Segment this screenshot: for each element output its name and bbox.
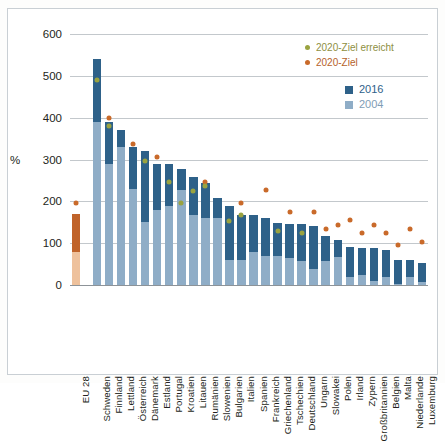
bar-niederlande xyxy=(406,260,414,285)
marker-ziel-erreicht-dot-icon xyxy=(299,231,304,236)
y-tick-label-100: 100 xyxy=(43,237,62,249)
marker-ziel-erreicht-dot-icon xyxy=(107,124,112,129)
bar-segment-2004 xyxy=(93,122,101,285)
bar-segment-2004 xyxy=(213,218,221,285)
marker-ziel-dot-icon xyxy=(263,188,268,193)
bar-segment-2004 xyxy=(201,218,209,285)
bar-tschechien xyxy=(285,224,293,285)
x-tick-label-eu-28: EU 28 xyxy=(80,376,91,403)
x-tick-label-griechenland: Griechenland xyxy=(282,376,293,434)
bar-großbritannien xyxy=(370,248,378,285)
x-tick-label-litauen: Litauen xyxy=(197,376,208,408)
marker-ziel-erreicht-dot-icon xyxy=(179,200,184,205)
bar-segment-2004 xyxy=(297,261,305,285)
x-tick-label-ungarn: Ungarn xyxy=(318,376,329,408)
bar-finnland xyxy=(105,122,113,285)
bar-österreich xyxy=(129,147,137,285)
marker-ziel-dot-icon xyxy=(107,115,112,120)
bar-polen xyxy=(334,240,342,285)
marker-ziel-erreicht-dot-icon xyxy=(275,229,280,234)
y-axis-unit-label: % xyxy=(10,154,20,166)
legend-label-ziel-erreicht: 2020-Ziel erreicht xyxy=(316,40,394,55)
marker-ziel-dot-icon xyxy=(323,227,328,232)
marker-ziel-dot-icon xyxy=(371,222,376,227)
bar-segment-2004 xyxy=(382,277,390,285)
bar-schweden xyxy=(93,59,101,285)
x-tick-label-großbritannien: Großbritannien xyxy=(378,376,389,441)
x-tick-label-deutschland: Deutschland xyxy=(306,376,317,430)
y-tick-label-200: 200 xyxy=(43,195,62,207)
bar-segment-2004 xyxy=(117,147,125,285)
olive-dot-icon xyxy=(305,45,310,50)
legend-label-2004: 2004 xyxy=(359,97,383,112)
swatch-2016-icon xyxy=(345,86,353,94)
bar-segment-2004 xyxy=(418,282,426,285)
bar-irland xyxy=(346,247,354,285)
x-tick-label-kroatien: Kroatien xyxy=(185,376,196,413)
y-axis: 0100200300400500600% xyxy=(0,34,70,285)
x-tick-label-tschechien: Tschechien xyxy=(294,376,305,425)
y-tick-label-300: 300 xyxy=(43,154,62,166)
bar-segment-2004 xyxy=(105,164,113,285)
marker-ziel-dot-icon xyxy=(335,222,340,227)
x-tick-label-irland: Irland xyxy=(354,376,365,401)
bar-estland xyxy=(153,164,161,285)
x-tick-label-österreich: Österreich xyxy=(137,376,148,421)
legend-item-2004: 2004 xyxy=(345,97,383,112)
x-tick-label-italien: Italien xyxy=(245,376,256,402)
bar-segment-2004 xyxy=(394,284,402,285)
bar-malta xyxy=(394,260,402,285)
x-tick-label-belgien: Belgien xyxy=(390,376,401,409)
legend-label-2016: 2016 xyxy=(359,82,383,97)
marker-ziel-dot-icon xyxy=(419,239,424,244)
x-tick-label-polen: Polen xyxy=(342,376,353,401)
x-tick-label-slowakei: Slowakei xyxy=(330,376,341,415)
bar-segment-2004 xyxy=(249,252,257,285)
marker-ziel-dot-icon xyxy=(359,231,364,236)
orange-dot-icon xyxy=(305,60,310,65)
bar-segment-2004 xyxy=(129,189,137,285)
bar-segment-2004 xyxy=(406,277,414,285)
legend-item-ziel: 2020-Ziel xyxy=(303,55,394,70)
bar-segment-2004 xyxy=(346,277,354,285)
gridline-0 xyxy=(70,285,428,286)
bar-segment-2004 xyxy=(370,281,378,285)
marker-ziel-dot-icon xyxy=(311,209,316,214)
marker-ziel-erreicht-dot-icon xyxy=(227,218,232,223)
bar-segment-2004 xyxy=(261,256,269,285)
bar-segment-2004 xyxy=(72,252,80,285)
bar-slowakei xyxy=(321,236,329,285)
marker-ziel-dot-icon xyxy=(407,227,412,232)
bar-italien xyxy=(237,215,245,285)
x-tick-label-zypern: Zypern xyxy=(366,376,377,406)
x-tick-label-rumänien: Rumänien xyxy=(209,376,220,421)
plot-area xyxy=(70,34,428,285)
x-tick-label-portugal: Portugal xyxy=(173,376,184,413)
legend-markers: 2020-Ziel erreicht 2020-Ziel xyxy=(303,40,394,70)
x-tick-label-frankreich: Frankreich xyxy=(270,376,281,422)
bar-slowenien xyxy=(213,198,221,285)
marker-ziel-dot-icon xyxy=(131,142,136,147)
bar-segment-2004 xyxy=(334,257,342,285)
marker-ziel-erreicht-dot-icon xyxy=(203,183,208,188)
bar-segment-2004 xyxy=(225,260,233,285)
legend-item-ziel-erreicht: 2020-Ziel erreicht xyxy=(303,40,394,55)
y-tick-label-0: 0 xyxy=(56,279,62,291)
legend-item-2016: 2016 xyxy=(345,82,383,97)
bar-dänemark xyxy=(141,151,149,285)
bar-kroatien xyxy=(177,169,185,285)
bar-segment-2004 xyxy=(165,206,173,285)
x-tick-label-spanien: Spanien xyxy=(258,376,269,412)
bar-frankreich xyxy=(261,218,269,285)
x-tick-label-slowenien: Slowenien xyxy=(221,376,232,421)
marker-ziel-erreicht-dot-icon xyxy=(143,158,148,163)
bar-lettland xyxy=(117,130,125,285)
gridline-500 xyxy=(70,76,428,77)
x-tick-label-schweden: Schweden xyxy=(101,376,112,422)
bar-spanien xyxy=(249,215,257,285)
swatch-2004-icon xyxy=(345,101,353,109)
y-tick-label-500: 500 xyxy=(43,70,62,82)
x-tick-label-niederlande: Niederlande xyxy=(414,376,425,429)
x-tick-label-dänemark: Dänemark xyxy=(149,376,160,421)
